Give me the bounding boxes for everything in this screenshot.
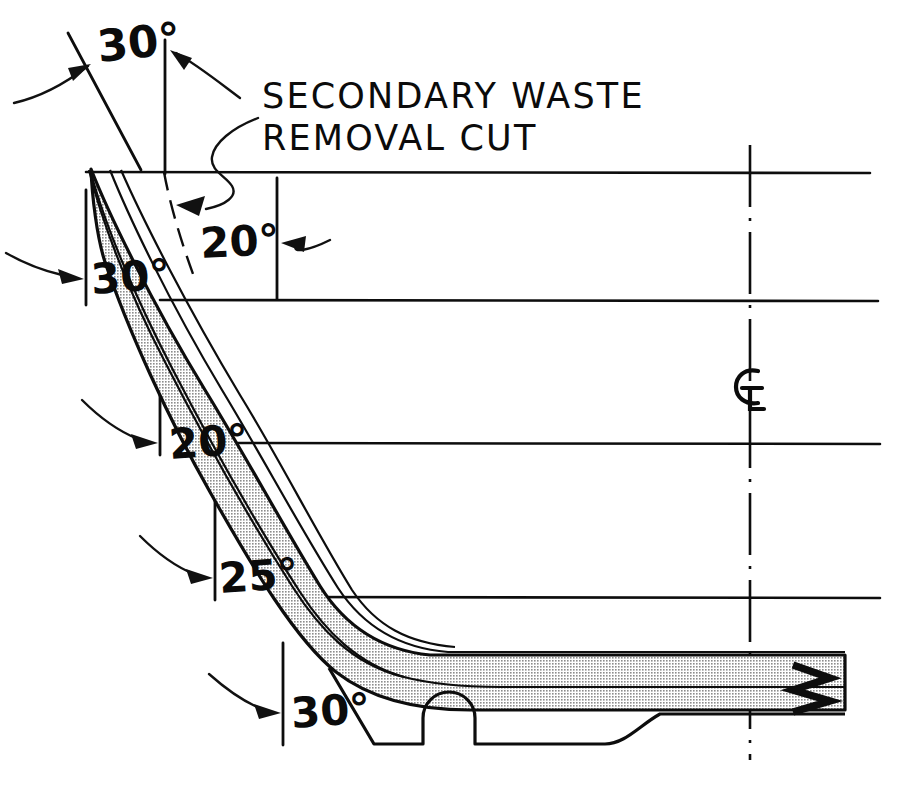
angle-label-20-mid: 20° [167, 415, 250, 469]
annotation-angle-20-upper: 20° [199, 215, 330, 268]
reference-line-station-1 [86, 172, 870, 173]
annotation-angle-30-upper-left: 30° [6, 250, 172, 304]
reference-line-station-2 [160, 300, 878, 301]
note-line-1: SECONDARY WASTE [262, 76, 645, 116]
arrowhead-secondary-cut [176, 196, 205, 216]
reference-line-station-3 [218, 443, 880, 444]
technical-drawing-canvas: 30° 20° 30° 20° [0, 0, 901, 805]
arrowhead-30-upper-left [58, 269, 84, 284]
angle-label-30-upper-left: 30° [89, 250, 172, 304]
reference-line-station-4 [281, 597, 880, 598]
leader-line-30-bottom [209, 674, 262, 709]
leader-line-20-mid [82, 400, 138, 439]
note-leader-line [206, 118, 258, 209]
leader-line-25-lower [140, 536, 194, 574]
annotation-angle-30-bottom: 30° [209, 674, 372, 738]
annotation-angle-top-30: 30° [14, 13, 240, 103]
angle-label-top-30: 30° [95, 13, 183, 72]
annotation-secondary-cut-arrow [176, 196, 205, 216]
angle-label-30-bottom: 30° [289, 684, 372, 738]
note-secondary-waste-removal-cut: SECONDARY WASTE REMOVAL CUT [206, 76, 645, 209]
drawing-sheet: 30° 20° 30° 20° [0, 0, 901, 805]
arrowhead-20-mid [131, 434, 158, 449]
angle-label-25-lower: 25° [217, 549, 300, 603]
arrowhead-20-upper [281, 236, 306, 252]
angle-label-20-upper: 20° [199, 215, 281, 268]
arrowhead-30-bottom [254, 704, 281, 719]
arrowhead-25-lower [186, 569, 213, 584]
leader-line-30-upper-left [6, 253, 62, 275]
note-line-2: REMOVAL CUT [262, 118, 537, 158]
